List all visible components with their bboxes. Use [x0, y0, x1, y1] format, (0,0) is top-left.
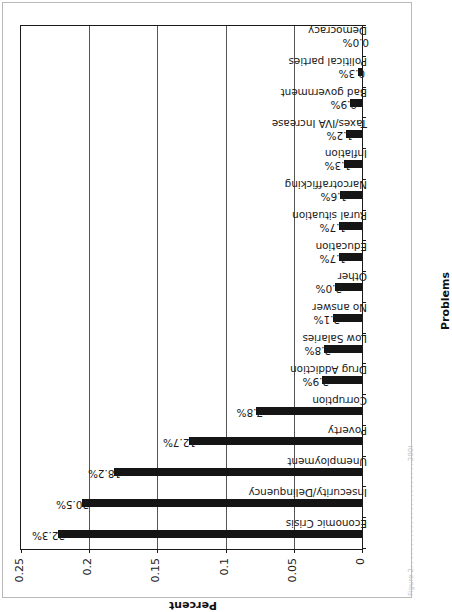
- x-axis-category-label: No answer: [312, 302, 367, 314]
- x-axis-category-label: Drug Addiction: [290, 364, 367, 376]
- bar-value-label: 0.3%: [339, 68, 365, 80]
- y-axis-title: Percent: [168, 599, 216, 612]
- x-axis-category-label: Inflation: [325, 148, 367, 160]
- bar-value-label: 2.9%: [303, 376, 329, 388]
- x-axis-tick-mark: [362, 548, 366, 549]
- bar-value-label: 1.6%: [321, 191, 347, 203]
- y-axis-tick-mark: [294, 549, 295, 553]
- bar-value-label: 18.2%: [88, 468, 121, 480]
- bar-value-label: 1.3%: [325, 160, 351, 172]
- y-axis-tick-mark: [89, 549, 90, 553]
- bar-value-label: 2.8%: [305, 345, 331, 357]
- bar-value-label: 0.0%: [343, 37, 369, 49]
- x-axis-category-label: Corruption: [312, 395, 367, 407]
- bar-value-label: 12.7%: [163, 437, 196, 449]
- bar-value-label: 7.8%: [236, 407, 262, 419]
- x-axis-category-label: Democracy: [308, 25, 367, 37]
- y-axis-tick-label: 0.15: [149, 558, 162, 598]
- x-axis-category-label: Insecurity/Delinquency: [249, 487, 367, 499]
- bar: [189, 437, 362, 445]
- bar-value-label: 1.7%: [320, 253, 346, 265]
- bar-value-label: 20.5%: [57, 499, 90, 511]
- figure-caption-sliver: Figure 2. . . . . . . . . . . . . . . . …: [407, 446, 416, 596]
- y-axis-tick-mark: [362, 549, 363, 553]
- y-axis-tick-label: 0.25: [13, 558, 26, 598]
- bar: [58, 530, 362, 538]
- bar-value-label: 2.0%: [315, 284, 341, 296]
- x-axis-category-label: Political parties: [289, 56, 367, 68]
- bar-value-label: 22.3%: [32, 530, 65, 542]
- bar-value-label: 0.9%: [330, 99, 356, 111]
- x-axis-category-label: Bad government: [281, 87, 367, 99]
- y-axis-tick-label: 0.05: [286, 558, 299, 598]
- x-axis-category-label: Narcotrafficking: [285, 179, 367, 191]
- bar-value-label: 1.7%: [320, 222, 346, 234]
- bar: [82, 499, 362, 507]
- y-axis-tick-label: 0: [354, 558, 367, 598]
- x-axis-category-label: Poverty: [328, 425, 367, 437]
- x-axis-category-label: Education: [316, 241, 367, 253]
- x-axis-category-label: Economic Crisis: [286, 518, 367, 530]
- x-axis-category-label: Low Salaries: [303, 333, 367, 345]
- y-axis-tick-mark: [157, 549, 158, 553]
- bar-value-label: 1.2%: [326, 130, 352, 142]
- x-axis-category-label: Taxes/IVA Increase: [272, 118, 367, 130]
- y-axis-tick-label: 0.2: [81, 558, 94, 598]
- y-axis-tick-mark: [226, 549, 227, 553]
- x-axis-category-label: Rural situation: [292, 210, 367, 222]
- x-axis-title: Problems: [439, 0, 452, 602]
- plot-area: [20, 25, 363, 550]
- bar-value-label: 2.1%: [314, 314, 340, 326]
- y-axis-tick-label: 0.1: [218, 558, 231, 598]
- x-axis-category-label: Unemployment: [287, 456, 367, 468]
- y-axis-tick-mark: [21, 549, 22, 553]
- bar: [114, 468, 362, 476]
- bar: [256, 407, 362, 415]
- x-axis-category-label: Other: [338, 272, 367, 284]
